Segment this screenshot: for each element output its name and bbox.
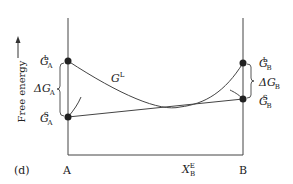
point-GB-L	[240, 60, 247, 67]
y-axis-label: Free energy	[16, 57, 27, 127]
label-delta-GB: ΔGB	[259, 77, 280, 91]
label-GA-L: GLA	[40, 56, 53, 70]
delta-GB-brace	[247, 64, 254, 98]
x-label-B: B	[239, 165, 247, 176]
point-GA-L	[65, 58, 72, 65]
delta-GA-brace	[57, 63, 64, 116]
up-arrow-head-icon	[16, 36, 21, 43]
solid-free-energy-line	[68, 99, 243, 117]
x-label-XBE: XEB	[182, 164, 195, 178]
solid-curve-stub-left	[68, 97, 81, 117]
liquid-free-energy-curve	[68, 61, 243, 108]
label-GA-S: GSA	[40, 113, 53, 127]
point-GB-S	[240, 96, 247, 103]
point-GA-S	[65, 114, 72, 121]
label-GB-S: GSB	[259, 96, 272, 110]
label-GB-L: GLB	[259, 58, 272, 72]
x-label-A: A	[63, 165, 71, 176]
label-liquid-curve: GL	[111, 73, 124, 84]
panel-label: (d)	[14, 165, 30, 176]
label-delta-GA: ΔGA	[34, 83, 55, 97]
